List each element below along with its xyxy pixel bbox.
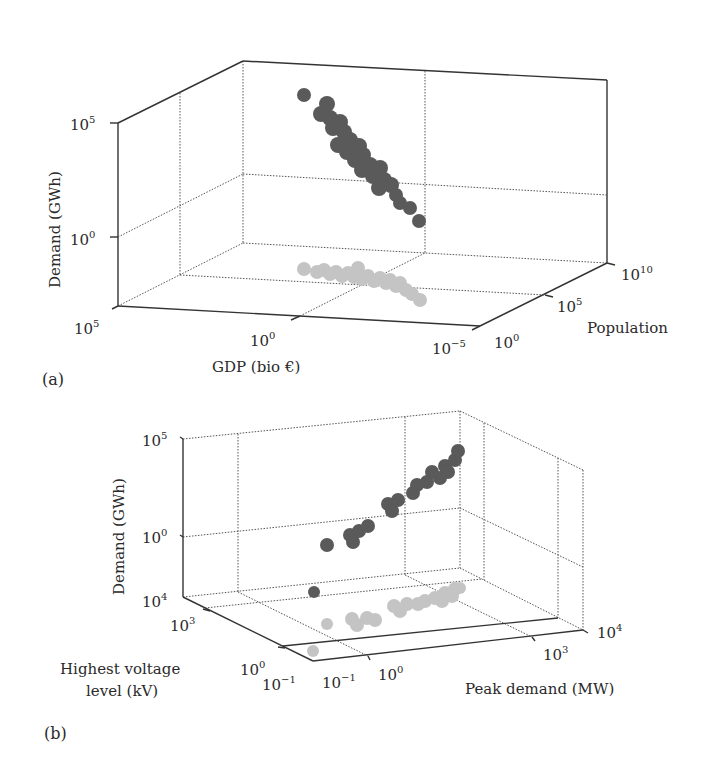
b-floor-right-edge bbox=[460, 568, 583, 630]
a-x-tick bbox=[112, 306, 118, 309]
b-z-tick-label-1e5: 105 bbox=[142, 430, 167, 450]
b-z-tick-label-1e0: 100 bbox=[142, 527, 167, 547]
b-x-tick-label-1e-1: 10−1 bbox=[322, 672, 356, 692]
a-x-tick bbox=[291, 316, 300, 320]
b-z-axis-title: Demand (GWh) bbox=[110, 478, 128, 595]
a-floor-points bbox=[297, 261, 427, 307]
b-panel-tag: (b) bbox=[44, 724, 67, 743]
a-y-tick-label-1e10: 1010 bbox=[621, 264, 653, 284]
a-x-tick bbox=[472, 326, 480, 330]
b-right-grid-z0 bbox=[460, 508, 583, 567]
b-y-axis bbox=[183, 597, 313, 661]
b-y-tick-label-1e3: 103 bbox=[170, 615, 195, 635]
b-x-tick-label-1e3: 103 bbox=[543, 644, 568, 664]
a-data-points bbox=[297, 88, 426, 228]
b-y-axis-title-line2: level (kV) bbox=[86, 682, 158, 700]
a-x-tick-label-1e-5: 10−5 bbox=[432, 338, 466, 358]
a-x-axis-title: GDP (bio €) bbox=[212, 358, 300, 376]
panel-a: 105 100 105 100 10−5 100 105 1010 Demand… bbox=[42, 61, 668, 389]
a-x-tick-label-1e5: 105 bbox=[74, 318, 99, 338]
a-y-axis-title: Population bbox=[587, 319, 668, 337]
b-z-tick-label-1e4: 104 bbox=[142, 591, 167, 611]
a-left-top-edge bbox=[118, 61, 243, 123]
b-x-tick-label-1e0: 100 bbox=[378, 664, 403, 684]
a-z-tick-label-1e0: 100 bbox=[70, 229, 95, 249]
b-back-grid-z0 bbox=[183, 508, 460, 537]
a-x-tick-label-1e0: 100 bbox=[250, 330, 275, 350]
b-back-top-edge bbox=[183, 411, 460, 439]
figure-canvas: 105 100 105 100 10−5 100 105 1010 Demand… bbox=[0, 0, 713, 771]
b-z-tick bbox=[180, 437, 183, 439]
b-back-bottom-edge bbox=[183, 568, 460, 597]
b-y-axis-title-line1: Highest voltage bbox=[60, 660, 180, 678]
a-z-axis-title: Demand (GWh) bbox=[46, 171, 64, 288]
a-y-tick-label-1e0: 100 bbox=[494, 332, 519, 352]
b-x-axis-title: Peak demand (MW) bbox=[465, 680, 614, 698]
b-y-tick-label-1e-1: 10−1 bbox=[262, 674, 296, 694]
a-y-tick-label-1e5: 105 bbox=[557, 296, 582, 316]
b-x-tick bbox=[532, 637, 535, 641]
a-panel-tag: (a) bbox=[42, 370, 64, 389]
a-z-tick-label-1e5: 105 bbox=[70, 114, 95, 134]
b-right-top-edge bbox=[460, 411, 583, 470]
a-y-tick bbox=[607, 263, 615, 265]
b-x-tick bbox=[583, 630, 588, 633]
a-y-tick bbox=[545, 295, 553, 297]
panel-b: 105 100 104 103 100 10−1 10−1 100 103 10… bbox=[44, 411, 622, 743]
b-y-tick bbox=[278, 647, 285, 648]
b-x-tick-label-1e4: 104 bbox=[597, 622, 622, 642]
b-data-points bbox=[308, 444, 465, 598]
b-x-tick bbox=[368, 656, 370, 660]
